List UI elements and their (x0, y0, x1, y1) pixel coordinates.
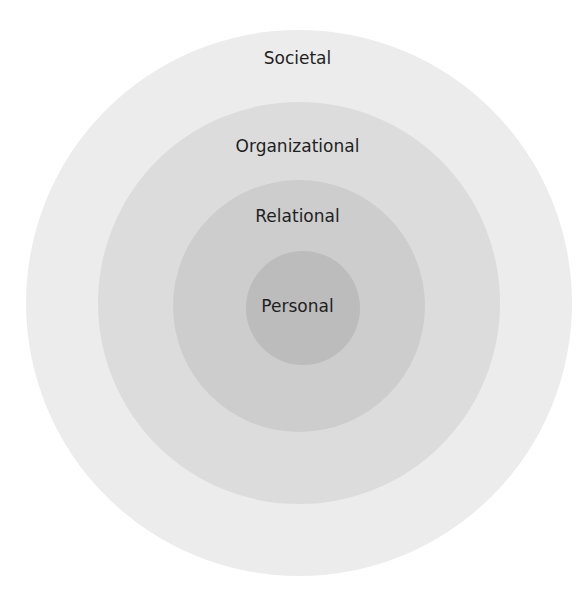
label-relational: Relational (5, 206, 585, 226)
label-personal: Personal (5, 296, 585, 316)
label-organizational: Organizational (5, 136, 585, 156)
label-societal: Societal (5, 48, 585, 68)
